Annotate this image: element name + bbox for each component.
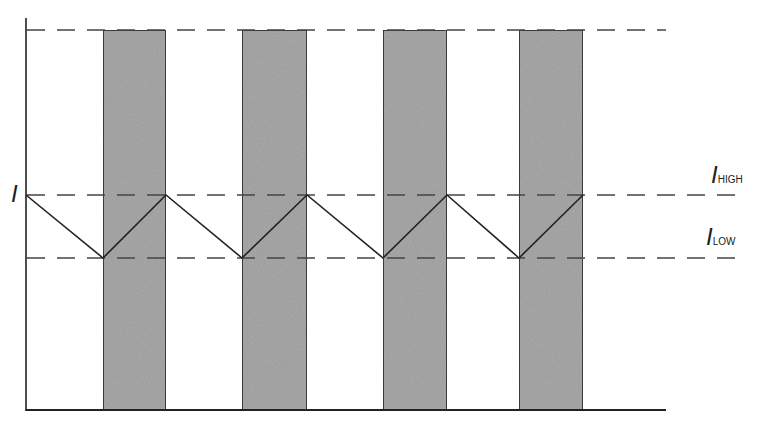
- i-high-label-sub: HIGH: [718, 174, 743, 185]
- i-low-label-main: I: [706, 223, 713, 250]
- i-high-label-main: I: [711, 161, 718, 188]
- i-low-label-sub: LOW: [713, 236, 736, 247]
- diagram-canvas: [0, 0, 763, 425]
- i-high-label: IHIGH: [711, 163, 743, 187]
- i-low-label: ILOW: [706, 225, 735, 249]
- shaded-band-4: [519, 30, 583, 410]
- shaded-band-2: [242, 30, 307, 410]
- shaded-band-1: [103, 30, 166, 410]
- shaded-bands: [103, 30, 583, 410]
- y-axis-label: I: [11, 182, 18, 206]
- shaded-band-3: [383, 30, 447, 410]
